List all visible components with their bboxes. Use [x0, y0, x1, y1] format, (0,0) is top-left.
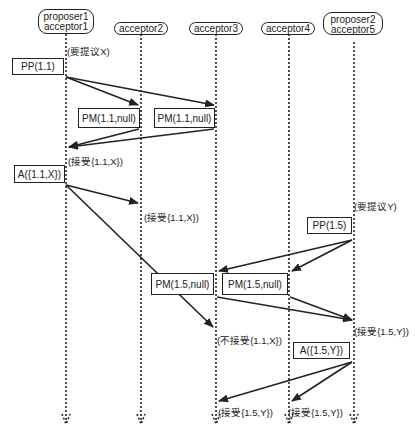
- msg-pp2-to-a3: [219, 240, 352, 271]
- msg-a2-to-a4: [292, 362, 352, 401]
- box-pm-1-5-acceptor3: PM(1.5,null): [151, 273, 214, 295]
- box-pm-1-1-acceptor2: PM(1.1,null): [78, 108, 140, 128]
- msg-pm-a2-to-p1: [69, 129, 139, 147]
- note-reject-acceptor3: (不接受{1.1,X}): [217, 333, 282, 347]
- msg-pm-a4-to-p2: [290, 297, 352, 320]
- box-pp-1-1: PP(1.1): [12, 58, 64, 75]
- box-accept-1-1-x: A({1.1,X}): [14, 165, 65, 183]
- note-propose-y: (要提议Y): [354, 199, 397, 213]
- box-pm-1-5-acceptor4: PM(1.5,null): [222, 273, 288, 295]
- actor-proposer1-acceptor1: proposer1 acceptor1: [38, 9, 94, 34]
- note-accept-1-1-proposer1: (接受{1.1,X}): [68, 154, 123, 168]
- note-accept-1-5-acceptor3: (接受{1.5,Y}): [218, 405, 273, 419]
- msg-pp2-to-a4: [292, 240, 352, 271]
- box-pm-1-1-acceptor3: PM(1.1,null): [154, 108, 215, 128]
- actor-acceptor4: acceptor4: [261, 22, 315, 35]
- msg-a1-to-a3: [66, 185, 213, 327]
- box-accept-1-5-y: A({1.5,Y}): [293, 342, 350, 359]
- msg-pm-a3-to-p2: [217, 297, 352, 320]
- msg-pp1-to-a2: [66, 77, 138, 105]
- msg-a1-to-a2: [66, 185, 138, 203]
- actor-acceptor3: acceptor3: [189, 22, 243, 35]
- box-pp-1-5: PP(1.5): [307, 217, 352, 234]
- actor-label-line2: acceptor5: [328, 25, 378, 35]
- msg-pp1-to-a3: [66, 77, 214, 105]
- actor-acceptor2: acceptor2: [114, 22, 168, 35]
- note-propose-x: (要提议X): [67, 44, 110, 58]
- note-accept-1-5-proposer2: (接受{1.5,Y}): [354, 324, 409, 338]
- note-accept-1-1-acceptor2: (接受{1.1,X}): [144, 210, 199, 224]
- actor-label-line2: acceptor1: [43, 22, 89, 32]
- actor-label: acceptor2: [119, 24, 163, 34]
- actor-label: acceptor4: [266, 24, 310, 34]
- actor-proposer2-acceptor5: proposer2 acceptor5: [323, 12, 383, 35]
- msg-a2-to-a3: [219, 362, 352, 401]
- actor-label: acceptor3: [194, 24, 238, 34]
- note-accept-1-5-acceptor4: (接受{1.5,Y}): [288, 405, 343, 419]
